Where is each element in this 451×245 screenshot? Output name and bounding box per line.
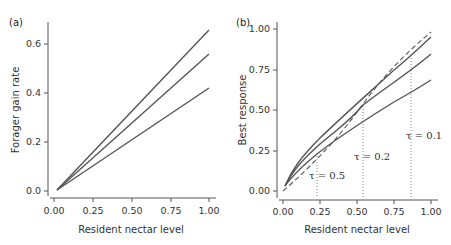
x-tick-label: 0.75	[160, 205, 181, 216]
x-tick-label: 0.75	[383, 206, 404, 217]
x-tick-label: 1.00	[198, 205, 219, 216]
y-tick-label: 0.0	[26, 185, 41, 196]
y-tick-label: 0.4	[26, 87, 41, 98]
x-tick-label: 0.50	[121, 205, 142, 216]
figure: (a) 0.6 0.4 0.2 0.0 0.00 0.25 0.50 0.75 …	[0, 0, 451, 245]
y-tick-label: 0.25	[249, 145, 270, 156]
annotation-tau-0-1: τ = 0.1	[406, 130, 442, 141]
x-tick-label: 0.00	[272, 206, 293, 217]
y-tick-label: 0.00	[249, 185, 270, 196]
y-tick-label: 0.50	[249, 104, 270, 115]
panel-b-x-label: Resident nectar level	[304, 224, 410, 235]
panel-a-x-label: Resident nectar level	[78, 224, 184, 235]
line-lower	[57, 88, 209, 190]
x-tick-label: 0.25	[82, 205, 103, 216]
line-middle	[57, 54, 209, 190]
y-tick-label: 0.6	[26, 38, 41, 49]
y-tick-label: 0.75	[249, 64, 270, 75]
line-upper	[57, 30, 209, 190]
panel-a-label: (a)	[9, 17, 23, 28]
x-tick-label: 1.00	[420, 206, 441, 217]
x-tick-label: 0.25	[309, 206, 330, 217]
panel-a: (a) 0.6 0.4 0.2 0.0 0.00 0.25 0.50 0.75 …	[9, 17, 220, 235]
y-tick-label: 1.00	[249, 23, 270, 34]
x-tick-label: 0.00	[43, 205, 64, 216]
annotation-tau-0-5: τ = 0.5	[309, 170, 345, 181]
panel-b: (b) 1.00 0.75 0.50 0.25 0.00 0.00 0.25 0…	[236, 17, 442, 235]
annotation-tau-0-2: τ = 0.2	[354, 151, 390, 162]
y-tick-label: 0.2	[26, 136, 41, 147]
panel-a-y-label: Forager gain rate	[10, 67, 21, 154]
curve-tau-0-2	[285, 54, 431, 186]
x-tick-label: 0.50	[346, 206, 367, 217]
panel-b-y-label: Best response	[237, 75, 248, 146]
